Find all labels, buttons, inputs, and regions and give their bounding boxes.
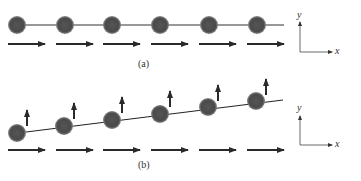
panel-a-label: (a) (138, 58, 149, 69)
ball (8, 124, 26, 142)
ball (200, 16, 218, 34)
balls-b (8, 92, 265, 142)
y-axis-label-b: y (297, 102, 301, 113)
axes-b (300, 116, 332, 145)
ball (55, 117, 73, 135)
y-axis-label-a: y (297, 9, 301, 20)
ball (56, 16, 74, 34)
ball (8, 16, 26, 34)
ball (103, 111, 121, 129)
ball (248, 16, 266, 34)
ball (151, 105, 169, 123)
wave-diagram (0, 0, 361, 181)
panel-b-label: (b) (138, 159, 150, 170)
ball (199, 98, 217, 116)
panel-a (8, 16, 332, 52)
string-line (10, 100, 283, 134)
x-axis-label-a: x (335, 45, 339, 56)
x-axis-label-b: x (335, 138, 339, 149)
ball (151, 16, 169, 34)
axes-a (300, 22, 332, 52)
panel-b (8, 79, 332, 150)
ball (247, 92, 265, 110)
ball (103, 16, 121, 34)
